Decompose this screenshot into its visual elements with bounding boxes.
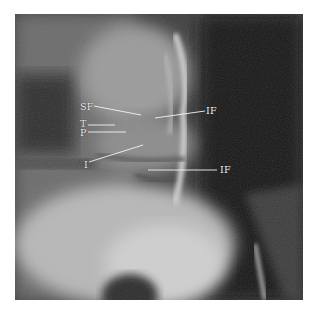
leader-line-sf (94, 106, 141, 115)
label-leader-lines (0, 0, 314, 312)
leader-line-i (89, 145, 143, 162)
label-superior-facet: SF (80, 102, 94, 112)
leader-line-if-upper (155, 111, 205, 118)
label-inferior-facet-upper: IF (206, 106, 217, 116)
label-inferior-facet-lower: IF (220, 165, 231, 175)
label-pedicle: P (80, 128, 87, 138)
label-isthmus: I (84, 160, 88, 170)
